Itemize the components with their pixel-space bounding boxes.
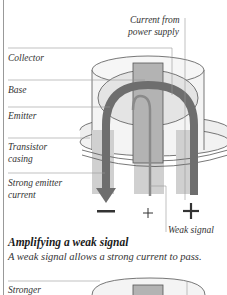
- label-current-from: Current from: [130, 14, 180, 26]
- label-collector: Collector: [8, 52, 44, 64]
- label-current: current: [8, 189, 36, 201]
- label-emitter: Emitter: [8, 110, 37, 122]
- label-stronger: Stronger: [8, 284, 41, 295]
- label-power-supply: power supply: [128, 26, 179, 38]
- label-base: Base: [8, 84, 26, 96]
- label-casing: casing: [8, 153, 33, 165]
- label-strong-emitter: Strong emitter: [8, 177, 62, 189]
- caption-title: Amplifying a weak signal: [8, 236, 128, 248]
- caption-text: A weak signal allows a strong current to…: [8, 251, 202, 262]
- label-weak-signal: Weak signal: [168, 224, 214, 236]
- label-transistor: Transistor: [8, 141, 47, 153]
